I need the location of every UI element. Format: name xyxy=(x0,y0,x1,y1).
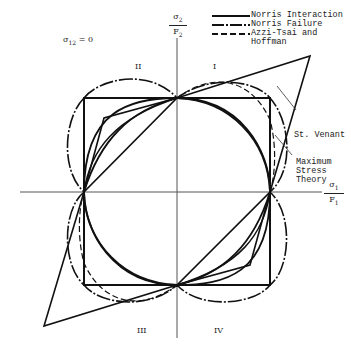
x-label-sigma-sub: 1 xyxy=(335,184,339,191)
y-label-sigma-sub: 2 xyxy=(179,16,183,23)
sigma12-subscript: 12 xyxy=(68,39,76,46)
quadrant-label-iii: III xyxy=(137,326,146,335)
st-venant-annotation: St. Venant xyxy=(294,131,345,140)
interaction-q3-inner-curve xyxy=(84,192,177,285)
quadrant-label-iv: IV xyxy=(214,326,223,335)
interaction-q1-inner-curve xyxy=(177,98,270,192)
y-label-fraction-bar xyxy=(169,25,187,26)
shear-stress-condition: σ12 = 0 xyxy=(63,35,93,46)
x-label-fraction-bar xyxy=(324,193,344,194)
x-axis-label: σ1 F1 xyxy=(324,180,344,206)
y-axis-label: σ2 F2 xyxy=(169,12,187,38)
legend-label-hoffman: Hoffman xyxy=(251,38,287,47)
quadrant-label-i: I xyxy=(213,62,216,71)
x-label-f-sub: 1 xyxy=(335,198,339,205)
st-venant-leader xyxy=(277,86,296,110)
max-stress-leader xyxy=(275,135,292,155)
y-label-f-sub: 2 xyxy=(179,30,183,37)
sigma12-equals: = 0 xyxy=(79,35,93,44)
max-stress-annotation-line3: Theory xyxy=(296,176,327,185)
quadrant-label-ii: II xyxy=(135,62,141,71)
